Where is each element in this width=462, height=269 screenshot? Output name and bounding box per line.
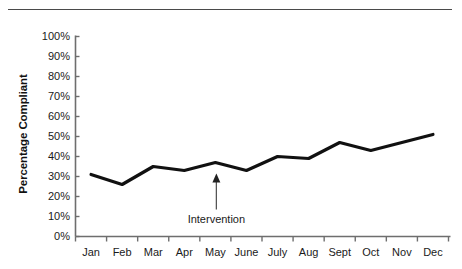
axis-ticks	[76, 37, 449, 242]
intervention-arrow	[212, 174, 220, 210]
x-tick-label: Dec	[411, 246, 455, 258]
annotation-arrow-head	[212, 174, 220, 183]
data-series-line	[91, 135, 433, 185]
chart-figure: Percentage Compliant 0%10%20%30%40%50%60…	[0, 0, 462, 269]
chart-plot-area	[0, 0, 462, 269]
intervention-label: Intervention	[156, 213, 276, 225]
axis-lines	[76, 36, 451, 237]
